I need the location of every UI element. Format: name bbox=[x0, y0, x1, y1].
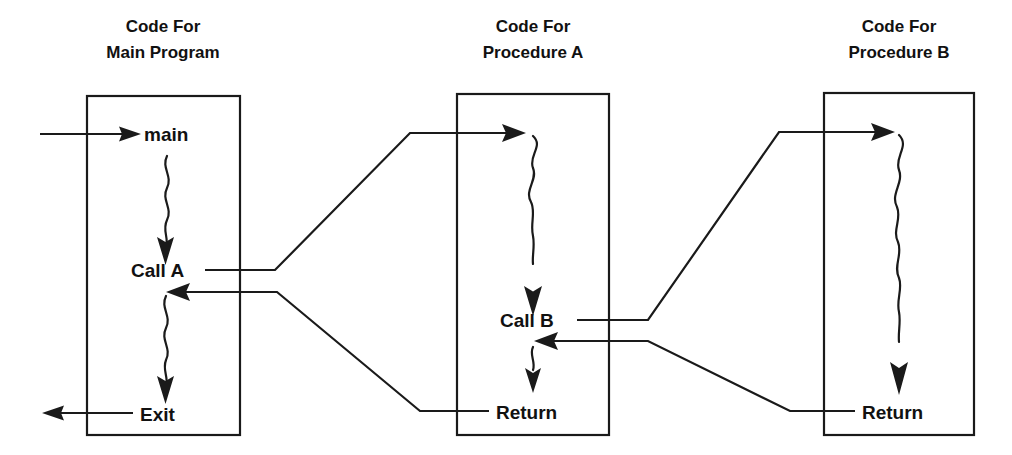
column-title-main-line2: Main Program bbox=[106, 43, 219, 62]
connector-return-b-to-procedure-a bbox=[546, 341, 855, 411]
node-label-call-b: Call B bbox=[500, 310, 554, 331]
execution-squiggle-call-a-to-exit bbox=[164, 296, 167, 386]
column-title-proc-a-line2: Procedure A bbox=[483, 43, 583, 62]
execution-squiggle-main-to-call-a bbox=[165, 156, 169, 246]
squiggle-arrow-head-icon-call-a-to-exit bbox=[157, 376, 174, 404]
node-label-return-a: Return bbox=[496, 402, 557, 423]
column-title-proc-b-line2: Procedure B bbox=[848, 43, 949, 62]
flowchart-canvas: Code For Main Program Code For Procedure… bbox=[0, 0, 1012, 455]
flowchart-diagram: Code For Main Program Code For Procedure… bbox=[0, 0, 1012, 455]
column-title-proc-a-line1: Code For bbox=[496, 17, 571, 36]
squiggle-arrow-head-icon-call-b-to-return-a bbox=[525, 368, 541, 393]
column-title-main-line1: Code For bbox=[126, 17, 201, 36]
execution-squiggle-call-b-to-return-a bbox=[532, 347, 534, 370]
node-label-exit: Exit bbox=[140, 404, 176, 425]
column-title-proc-b-line1: Code For bbox=[862, 17, 937, 36]
connector-return-a-to-main bbox=[178, 292, 489, 411]
node-label-return-b: Return bbox=[862, 402, 923, 423]
connector-call-a-to-procedure-a bbox=[205, 133, 516, 270]
program-start-arrow-head-icon bbox=[119, 127, 141, 142]
node-label-main: main bbox=[144, 124, 188, 145]
execution-squiggle-proc-b bbox=[895, 135, 903, 342]
program-exit-arrow-head-icon bbox=[42, 406, 64, 421]
connector-call-b-to-procedure-b bbox=[577, 132, 885, 320]
node-label-call-a: Call A bbox=[131, 260, 184, 281]
squiggle-arrow-head-icon-proc-b bbox=[890, 362, 908, 395]
execution-squiggle-proc-a-entry-to-call-b bbox=[529, 136, 537, 264]
